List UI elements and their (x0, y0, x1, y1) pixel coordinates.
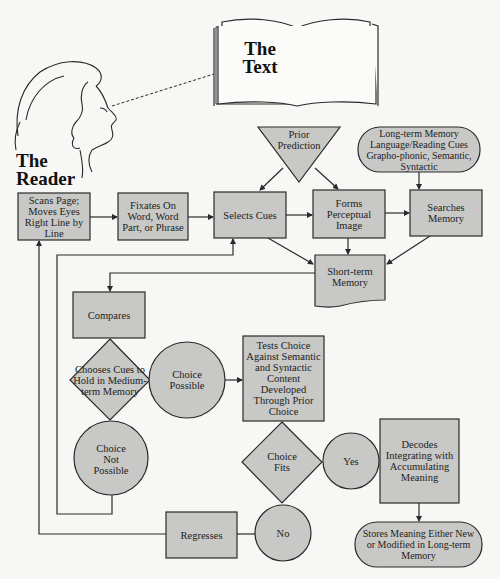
searches-memory-label: Searches Memory (418, 190, 474, 236)
decodes-label: Decodes Integrating with Accumulating Me… (384, 419, 455, 503)
choice-not-possible-label: Choice Not Possible (88, 440, 134, 478)
choice-fits-label: Choice Fits (262, 448, 302, 476)
choice-possible-label: Choice Possible (160, 365, 214, 395)
selects-cues-label: Selects Cues (214, 192, 286, 238)
tests-choice-label: Tests Choice Against Semantic and Syntac… (246, 336, 321, 421)
chooses-cues-label: Chooses Cues to Hold in Medium-term Memo… (72, 355, 148, 405)
book-illustration (214, 19, 378, 106)
book-title: The Text (240, 40, 280, 76)
compares-label: Compares (73, 292, 145, 338)
stores-meaning-label: Stores Meaning Either New or Modified in… (362, 522, 475, 567)
gaze-line (112, 74, 214, 106)
no-label: No (263, 523, 303, 543)
regresses-label: Regresses (166, 512, 237, 558)
long-term-memory-label: Long-term Memory Language/Reading Cues G… (362, 127, 476, 172)
fixates-label: Fixates On Word, Word Part, or Phrase (120, 193, 186, 240)
reader-title: The Reader (16, 152, 78, 188)
yes-label: Yes (331, 451, 371, 471)
short-term-memory-label: Short-term Memory (320, 262, 380, 292)
forms-image-label: Forms Perceptual Image (320, 190, 378, 238)
prior-prediction-label: Prior Prediction (272, 128, 326, 152)
scans-label: Scans Page; Moves Eyes Right Line by Lin… (20, 193, 88, 240)
